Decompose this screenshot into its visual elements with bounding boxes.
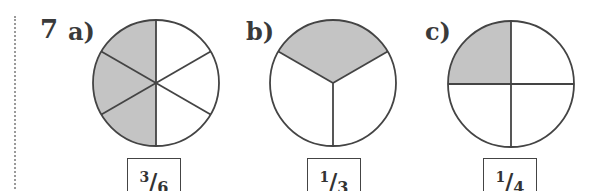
numerator: 1: [320, 169, 330, 185]
denominator: 4: [513, 178, 524, 191]
answer-box-c: 1/4: [483, 158, 537, 191]
denominator: 6: [157, 178, 168, 191]
denominator: 3: [337, 178, 348, 191]
answer-box-b: 1/3: [307, 158, 361, 191]
answer-box-a: 3/6: [127, 158, 181, 191]
pie-b-thirds: [270, 20, 396, 146]
numerator: 3: [140, 169, 150, 185]
numerator: 1: [496, 169, 506, 185]
pie-a-sixths: [93, 20, 219, 146]
pie-c-quarters: [448, 21, 574, 147]
